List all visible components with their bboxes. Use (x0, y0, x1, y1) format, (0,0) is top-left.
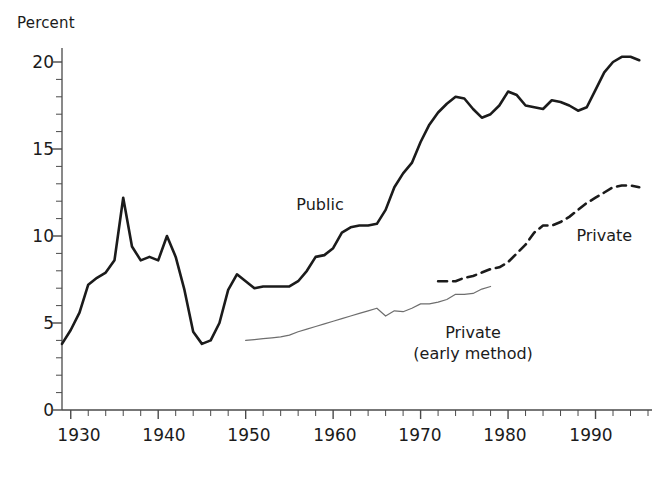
series-line-private-early-method (246, 286, 491, 340)
chart-figure: Percent 20 15 10 5 0 1930 1940 1950 1960… (0, 0, 663, 478)
plot-area (0, 0, 663, 478)
data-series-layer (62, 57, 639, 344)
series-line-public (62, 57, 639, 344)
series-line-private (438, 186, 639, 282)
